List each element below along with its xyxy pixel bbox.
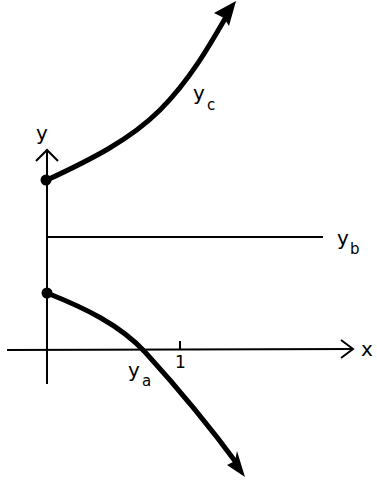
ya-start-point: [42, 288, 53, 299]
yc-label: y: [193, 81, 205, 105]
y-axis-label: y: [36, 121, 48, 145]
yb-subscript: b: [350, 240, 360, 258]
ya-subscript: a: [142, 372, 151, 390]
x-tick-label: 1: [175, 352, 186, 372]
graph-canvas: y x 1 y c y b y a: [0, 0, 377, 501]
curve-yc: [41, 1, 237, 186]
yb-label: y: [337, 226, 349, 250]
yc-subscript: c: [207, 96, 215, 114]
ya-label: y: [128, 358, 140, 382]
x-axis-label: x: [361, 337, 373, 361]
yc-start-point: [41, 175, 52, 186]
